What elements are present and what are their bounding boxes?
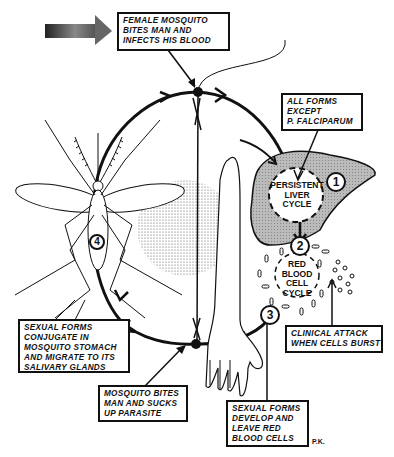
callout-all-forms: ALL FORMS EXCEPT P. FALCIPARUM [281,93,363,131]
callout-clinical-attack: CLINICAL ATTACK WHEN CELLS BURST [285,325,383,353]
step-3-badge: 3 [260,305,280,325]
callout-line: FEMALE MOSQUITO [123,16,224,26]
callout-sexual-conjugate: SEXUAL FORMS CONJUGATE IN MOSQUITO STOMA… [18,319,130,373]
callout-line: AND MIGRATE TO ITS [24,353,124,363]
callout-line: SEXUAL FORMS [232,404,303,414]
callout-line: MAN AND SUCKS [104,399,182,409]
step-1-badge: 1 [326,172,346,192]
callout-line: CONJUGATE IN [24,333,124,343]
callout-line: EXCEPT [287,107,357,117]
malaria-cycle-artwork [0,0,394,457]
callout-line: BLOOD CELLS [232,434,303,444]
callout-line: SEXUAL FORMS [24,323,124,333]
liver-cycle-label: PERSISTENT LIVER CYCLE [268,181,326,210]
artist-signature: P.K. [312,438,325,445]
callout-line: UP PARASITE [104,409,182,419]
red-blood-cell-cycle-label: RED BLOOD CELL CYCLE [274,260,320,298]
callout-line: WHEN CELLS BURST [291,339,377,349]
callout-line: ALL FORMS [287,97,357,107]
callout-mosquito-bites: MOSQUITO BITES MAN AND SUCKS UP PARASITE [98,385,188,422]
callout-line: INFECTS HIS BLOOD [123,36,224,46]
callout-sexual-develop: SEXUAL FORMS DEVELOP AND LEAVE RED BLOOD… [226,400,309,447]
callout-line: DEVELOP AND [232,414,303,424]
callout-line: LEAVE RED [232,424,303,434]
callout-line: BITES MAN AND [123,26,224,36]
callout-line: P. FALCIPARUM [287,117,357,127]
callout-female-mosquito: FEMALE MOSQUITO BITES MAN AND INFECTS HI… [117,12,230,51]
callout-line: SALIVARY GLANDS [24,363,124,373]
callout-line: MOSQUITO BITES [104,389,182,399]
step-2-badge: 2 [290,236,310,256]
callout-line: MOSQUITO STOMACH [24,343,124,353]
callout-line: CLINICAL ATTACK [291,329,377,339]
step-4-badge: 4 [89,234,105,250]
direction-arrow-icon [45,15,112,45]
